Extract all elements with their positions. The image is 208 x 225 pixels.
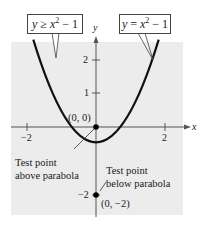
point-origin-label: (0, 0) (68, 113, 91, 124)
point-origin (93, 124, 99, 130)
above-annotation-line2: above parabola (15, 171, 79, 182)
eq-rest: − 1 (149, 17, 168, 31)
y-axis-arrow-icon (94, 36, 99, 43)
tick-label-x-neg2: −2 (21, 133, 32, 143)
tick-label-x-2: 2 (162, 133, 167, 143)
tick-label-y-neg2: −2 (78, 190, 89, 200)
tick-label-y-1: 1 (84, 88, 89, 98)
ineq-rest: − 1 (59, 17, 78, 31)
inequality-label-box: y ≥ x2 − 1 (27, 14, 83, 34)
above-annotation-line1: Test point (15, 158, 57, 169)
eq-op: = (127, 17, 140, 31)
x-axis-label: x (192, 122, 196, 132)
point-below-label: (0, −2) (101, 199, 130, 210)
equation-label-box: y = x2 − 1 (119, 14, 171, 34)
tick-label-y-2: 2 (83, 55, 88, 65)
below-annotation-line2: below parabola (106, 179, 170, 190)
below-annotation-line1: Test point (106, 166, 148, 177)
ineq-op: ≥ (37, 17, 50, 31)
y-axis-label: y (93, 23, 97, 33)
x-axis-arrow-icon (184, 125, 191, 130)
point-below (93, 192, 99, 198)
